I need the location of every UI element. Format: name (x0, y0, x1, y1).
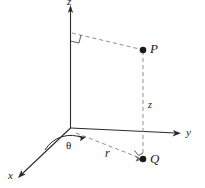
r-radius-label: r (105, 147, 110, 159)
z-height-label: z (148, 100, 152, 110)
x-axis-line (22, 128, 71, 174)
y-axis-label: y (186, 127, 191, 138)
figure-canvas (0, 0, 205, 188)
z-axis-label: z (67, 0, 71, 7)
cylindrical-coordinates-figure: z y x P Q z r θ (0, 0, 205, 188)
point-Q-label: Q (150, 152, 159, 165)
x-axis-label: x (8, 170, 13, 181)
y-axis-line (71, 128, 177, 133)
point-P-dot (140, 47, 147, 54)
dashed-zaxis-to-P (72, 33, 142, 50)
right-angle-q-marker (135, 151, 144, 156)
theta-angle-label: θ (66, 140, 71, 151)
theta-angle-arc (45, 135, 83, 150)
point-P-label: P (150, 42, 158, 55)
right-angle-z-axis-marker (71, 35, 82, 43)
point-Q-dot (140, 156, 147, 163)
